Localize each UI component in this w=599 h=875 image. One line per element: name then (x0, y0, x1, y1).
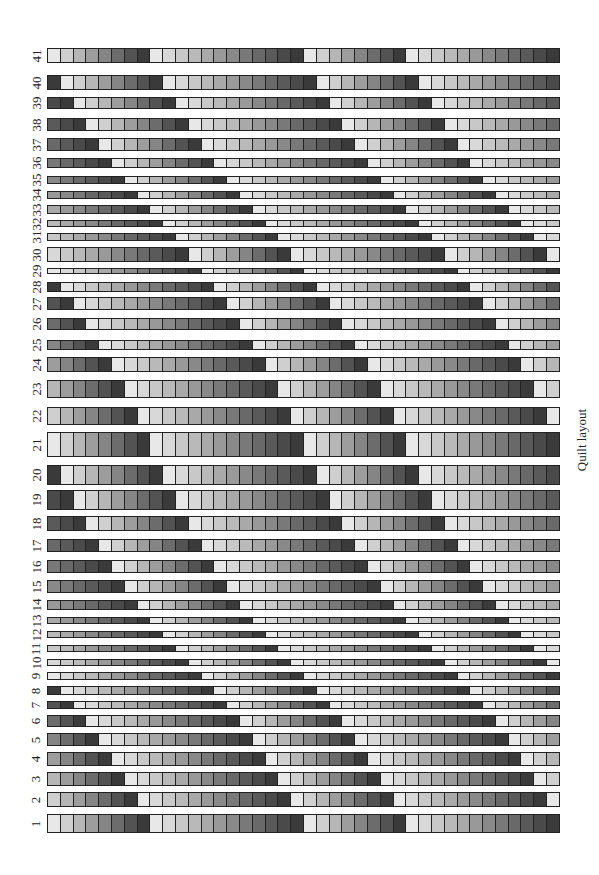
quilt-cell (419, 540, 432, 551)
quilt-cell (99, 159, 112, 167)
quilt-cell (342, 702, 355, 708)
quilt-cell (304, 283, 317, 291)
quilt-cell (368, 687, 381, 694)
quilt-cell (458, 283, 471, 291)
quilt-cell (125, 381, 138, 397)
row-label-text: 17 (28, 539, 44, 552)
quilt-cell (227, 358, 240, 371)
quilt-cell (547, 49, 559, 62)
quilt-cell (112, 298, 125, 309)
quilt-cell (278, 734, 291, 745)
quilt-cell (163, 139, 176, 150)
quilt-cell (330, 716, 343, 726)
quilt-cell (202, 491, 215, 509)
quilt-cell (240, 601, 253, 609)
quilt-cell (342, 341, 355, 349)
quilt-cell (176, 408, 189, 424)
quilt-cell (317, 793, 330, 806)
quilt-cell (48, 581, 61, 592)
quilt-cell (317, 358, 330, 371)
quilt-cell (138, 206, 151, 213)
quilt-cell (150, 716, 163, 726)
quilt-cell (496, 139, 509, 150)
quilt-cell (189, 234, 202, 240)
quilt-cell (534, 221, 547, 226)
quilt-cell (394, 283, 407, 291)
quilt-cell (547, 618, 559, 623)
quilt-cell (483, 815, 496, 832)
quilt-cell (202, 687, 215, 694)
quilt-cell (125, 358, 138, 371)
quilt-cell (342, 269, 355, 273)
quilt-cell (125, 234, 138, 240)
quilt-cell (304, 408, 317, 424)
quilt-cell (406, 159, 419, 167)
quilt-cell (214, 248, 227, 261)
quilt-cell (342, 76, 355, 89)
quilt-cell (419, 159, 432, 167)
row-label-text: 25 (28, 339, 44, 352)
quilt-cell (74, 139, 87, 150)
quilt-cell (304, 341, 317, 349)
quilt-cell (483, 673, 496, 679)
quilt-cell (253, 540, 266, 551)
quilt-cell (176, 716, 189, 726)
quilt-cell (483, 269, 496, 273)
quilt-cell (150, 561, 163, 572)
quilt-cell (61, 221, 74, 226)
quilt-cell (394, 561, 407, 572)
quilt-cell (240, 581, 253, 592)
quilt-cell (202, 298, 215, 309)
row-label: 10 (28, 659, 44, 666)
quilt-cell (138, 673, 151, 679)
quilt-cell (355, 269, 368, 273)
quilt-row (47, 516, 560, 531)
quilt-cell (112, 815, 125, 832)
quilt-cell (48, 206, 61, 213)
quilt-cell (470, 341, 483, 349)
quilt-cell (509, 49, 522, 62)
quilt-cell (48, 561, 61, 572)
quilt-cell (74, 283, 87, 291)
quilt-cell (202, 716, 215, 726)
quilt-cell (61, 632, 74, 637)
quilt-cell (278, 177, 291, 183)
quilt-cell (163, 408, 176, 424)
quilt-cell (214, 177, 227, 183)
quilt-cell (470, 702, 483, 708)
quilt-row (47, 645, 560, 652)
quilt-cell (317, 734, 330, 745)
quilt-cell (496, 491, 509, 509)
quilt-cell (202, 517, 215, 530)
quilt-cell (368, 319, 381, 329)
quilt-cell (189, 248, 202, 261)
quilt-cell (534, 408, 547, 424)
quilt-cell (227, 491, 240, 509)
quilt-cell (227, 433, 240, 456)
quilt-cell (419, 660, 432, 665)
quilt-cell (304, 98, 317, 108)
quilt-cell (99, 298, 112, 309)
quilt-cell (394, 793, 407, 806)
row-label-text: 24 (28, 358, 44, 371)
quilt-cell (304, 716, 317, 726)
quilt-cell (547, 702, 559, 708)
quilt-cell (304, 753, 317, 765)
quilt-cell (381, 221, 394, 226)
quilt-cell (381, 673, 394, 679)
quilt-cell (74, 793, 87, 806)
quilt-cell (291, 618, 304, 623)
quilt-cell (547, 119, 559, 130)
quilt-cell (304, 581, 317, 592)
quilt-cell (406, 206, 419, 213)
quilt-cell (355, 76, 368, 89)
quilt-cell (150, 815, 163, 832)
quilt-cell (150, 98, 163, 108)
quilt-cell (381, 341, 394, 349)
quilt-cell (483, 540, 496, 551)
quilt-cell (240, 687, 253, 694)
quilt-cell (547, 221, 559, 226)
quilt-cell (112, 49, 125, 62)
quilt-cell (432, 702, 445, 708)
quilt-cell (214, 753, 227, 765)
